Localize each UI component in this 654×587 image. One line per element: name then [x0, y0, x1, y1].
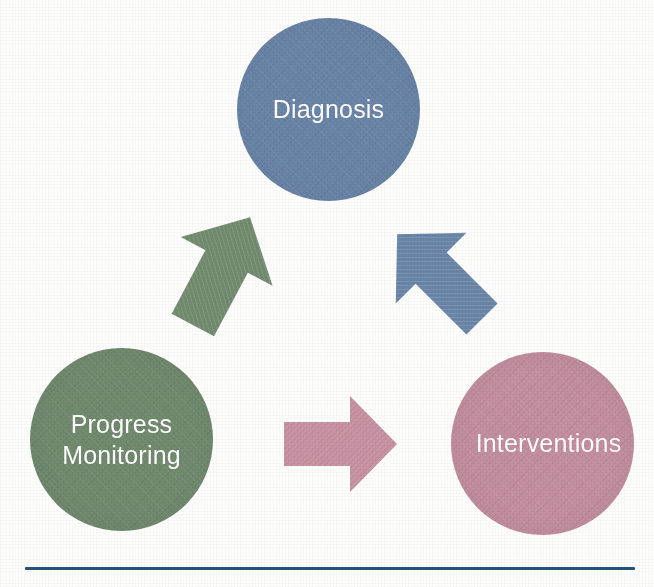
arrow-layer [0, 0, 654, 587]
diagram-canvas: Diagnosis Progress Monitoring Interventi… [0, 0, 654, 587]
arrow-progress-to-diagnosis [147, 193, 296, 350]
arrow-interventions-to-progress [284, 396, 397, 492]
bottom-divider [25, 567, 635, 570]
arrow-diagnosis-to-interventions [362, 199, 518, 355]
